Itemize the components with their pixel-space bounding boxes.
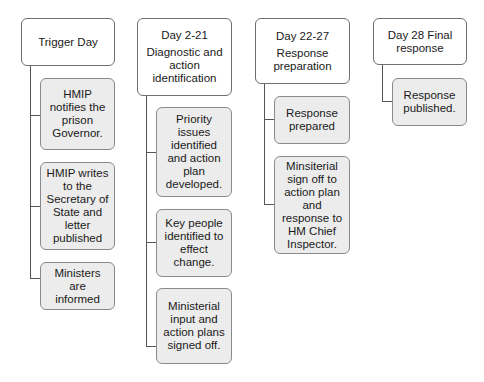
step-priority-issues: Priority issues identified and action pl… [156,107,232,197]
step-hmip-notifies-governor: HMIP notifies the prison Governor. [40,78,115,150]
step-ministers-informed: Ministers are informed [40,262,115,310]
header-title: Day 28 Final response [379,29,461,55]
header-subtitle: Diagnostic and action identification [143,46,226,85]
connector-vertical [146,96,147,346]
step-key-people: Key people identified to effect change. [156,209,232,277]
step-text: Ministerial input and action plans signe… [162,300,226,352]
connector-horizontal [146,242,156,243]
connector-horizontal [146,346,156,347]
header-title: Day 22-27 [276,30,329,43]
header-day-2-21: Day 2-21 Diagnostic and action identific… [137,18,232,96]
connector-vertical [382,65,383,101]
step-text: Response prepared [280,107,344,133]
connector-horizontal [30,115,40,116]
header-title: Day 2-21 [161,29,208,42]
header-subtitle: Response preparation [261,47,344,73]
header-day-22-27: Day 22-27 Response preparation [255,18,350,84]
header-title: Trigger Day [38,36,98,49]
connector-vertical [264,84,265,204]
connector-horizontal [264,204,274,205]
connector-horizontal [30,206,40,207]
step-text: HMIP writes to the Secretary of State an… [46,167,109,245]
connector-horizontal [264,119,274,120]
step-response-published: Response published. [392,78,467,126]
step-text: Ministers are informed [46,267,109,306]
step-text: Key people identified to effect change. [162,217,226,269]
header-day-28: Day 28 Final response [373,18,467,65]
connector-horizontal [146,152,156,153]
step-text: Response published. [398,89,461,115]
connector-vertical [30,66,31,278]
step-text: Priority issues identified and action pl… [162,113,226,191]
step-response-prepared: Response prepared [274,96,350,144]
connector-horizontal [30,278,40,279]
step-ministerial-input: Ministerial input and action plans signe… [156,288,232,364]
step-text: Minsiterial sign off to action plan and … [280,160,344,251]
step-ministerial-sign-off: Minsiterial sign off to action plan and … [274,156,350,254]
step-hmip-writes-secretary: HMIP writes to the Secretary of State an… [40,162,115,250]
step-text: HMIP notifies the prison Governor. [46,88,109,140]
connector-horizontal [382,101,392,102]
header-trigger-day: Trigger Day [21,18,115,66]
